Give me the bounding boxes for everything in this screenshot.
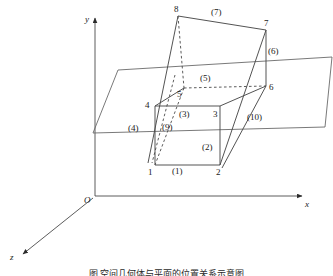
- vertex-label-7: 7: [264, 19, 269, 28]
- vertex-label-6: 6: [269, 83, 274, 92]
- edge-label-5: (5): [200, 74, 211, 83]
- y-axis-label: y: [85, 15, 89, 24]
- edge-7-2: [220, 30, 266, 165]
- edge-8-5-hidden: [178, 16, 184, 88]
- edge-label-3: (3): [179, 110, 190, 119]
- figure-caption: 图 空间几何体与平面的位置关系示意图: [0, 267, 333, 276]
- edge-label-7: (7): [211, 8, 222, 17]
- origin-label: O: [84, 196, 91, 205]
- z-axis: [23, 198, 93, 254]
- vertex-label-2: 2: [216, 168, 221, 177]
- edge-8-1: [148, 16, 178, 163]
- horizontal-plane-outline: [93, 57, 332, 133]
- edge-6-2: [222, 86, 266, 168]
- vertex-label-3: 3: [213, 110, 218, 119]
- edge-8-7: [178, 16, 266, 30]
- edge-label-9: (9): [162, 123, 173, 132]
- edge-label-1: (1): [172, 167, 183, 176]
- vertex-label-4: 4: [145, 101, 150, 110]
- edge-label-2: (2): [202, 143, 213, 152]
- vertex-label-5: 5: [177, 90, 182, 99]
- vertex-label-1: 1: [148, 168, 153, 177]
- edge-5-6-hidden: [184, 86, 266, 88]
- horizontal-plane: [93, 57, 332, 133]
- z-axis-label: z: [10, 253, 14, 262]
- x-axis-label: x: [305, 200, 309, 209]
- edge-label-10: (10): [247, 113, 262, 122]
- coordinate-axes: [23, 18, 302, 254]
- edge-3-6: [220, 86, 266, 106]
- edge-label-6: (6): [268, 47, 279, 56]
- vertex-label-8: 8: [174, 5, 179, 14]
- edge-label-4: (4): [128, 124, 139, 133]
